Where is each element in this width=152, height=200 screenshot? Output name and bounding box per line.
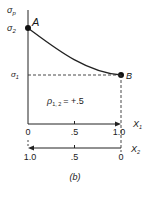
- point-a-label: A: [31, 16, 39, 28]
- correlation-label: ρ1, 2= +.5: [46, 96, 84, 107]
- x2-axis-arrow: [28, 146, 34, 151]
- x1-tick-label: 1.0: [113, 127, 126, 137]
- x1-tick-label: 0: [25, 127, 30, 137]
- portfolio-risk-diagram: σp σ2 σ1 A B ρ1, 2= +.5 0 .5 1.0 X1 1.0 …: [0, 0, 152, 200]
- x1-tick-label: .5: [71, 127, 79, 137]
- x2-tick-label: 1.0: [24, 152, 37, 162]
- figure-caption: (b): [70, 172, 81, 182]
- x2-axis-label: X2: [130, 144, 140, 155]
- risk-curve: [28, 28, 121, 75]
- y-axis-label: σp: [7, 5, 16, 16]
- x2-tick-label: .5: [71, 152, 79, 162]
- x1-axis-label: X1: [132, 119, 142, 130]
- y-tick-sigma2: σ2: [7, 23, 16, 34]
- point-a: [25, 25, 31, 31]
- y-tick-sigma1: σ1: [11, 70, 19, 80]
- point-b-label: B: [126, 71, 132, 81]
- x1-axis-arrow: [115, 122, 121, 127]
- x2-tick-label: 0: [118, 152, 123, 162]
